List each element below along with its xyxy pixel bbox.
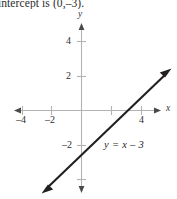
x-axis-arrow-left-icon: [14, 108, 21, 114]
graph-line-segment: [46, 73, 167, 189]
graph-line-arrow-upper-right-icon: [160, 69, 172, 78]
graph-line: [42, 69, 172, 194]
y-axis-arrow-up-icon: [79, 23, 85, 30]
coordinate-plane: [0, 0, 177, 199]
equation-annotation: y = x – 3: [104, 139, 144, 150]
y-axis-arrow-down-icon: [79, 186, 85, 193]
y-tick-label-2: 2: [66, 70, 71, 81]
x-tick-label-4: 4: [139, 114, 144, 125]
y-tick-label-4: 4: [66, 35, 71, 46]
graph-line-arrow-lower-left-icon: [42, 185, 54, 194]
x-axis-arrow-right-icon: [154, 108, 161, 114]
y-tick-label--2: –2: [62, 139, 72, 150]
x-axis-label: x: [166, 103, 170, 113]
x-tick-label--2: –2: [45, 114, 55, 125]
x-tick-label--4: –4: [16, 114, 26, 125]
x-axis: [14, 108, 161, 114]
y-axis-label: y: [78, 9, 82, 19]
figure-container: The y-intercept is (0,–3).: [0, 0, 177, 199]
y-axis: [79, 23, 85, 193]
